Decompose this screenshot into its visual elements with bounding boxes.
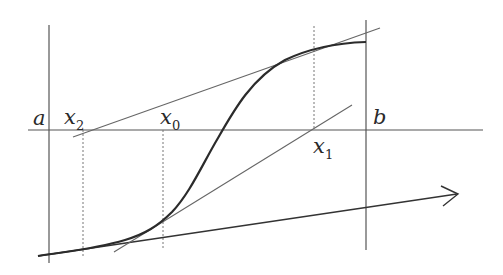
svg-text:2: 2 <box>76 118 84 133</box>
svg-text:0: 0 <box>172 118 180 133</box>
svg-text:x: x <box>160 105 172 129</box>
svg-text:x: x <box>64 105 76 129</box>
svg-text:a: a <box>33 106 46 130</box>
label-x2: x 2 <box>64 105 84 133</box>
svg-text:x: x <box>313 134 325 158</box>
newton-method-diagram: a x 2 x 0 x 1 b <box>0 0 503 275</box>
label-x0: x 0 <box>160 105 180 133</box>
label-x1: x 1 <box>313 134 333 162</box>
label-b: b <box>373 105 386 129</box>
svg-text:1: 1 <box>325 147 333 162</box>
svg-text:b: b <box>373 105 386 129</box>
label-a: a <box>33 106 46 130</box>
